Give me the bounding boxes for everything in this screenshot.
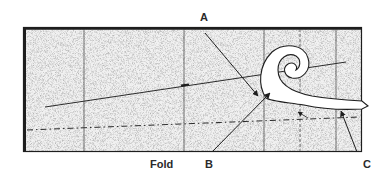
label-fold: Fold xyxy=(150,159,173,170)
label-c: C xyxy=(363,159,371,170)
pattern-paper xyxy=(23,27,362,152)
label-a: A xyxy=(200,12,208,23)
pattern-diagram xyxy=(0,0,390,181)
label-b: B xyxy=(205,159,213,170)
